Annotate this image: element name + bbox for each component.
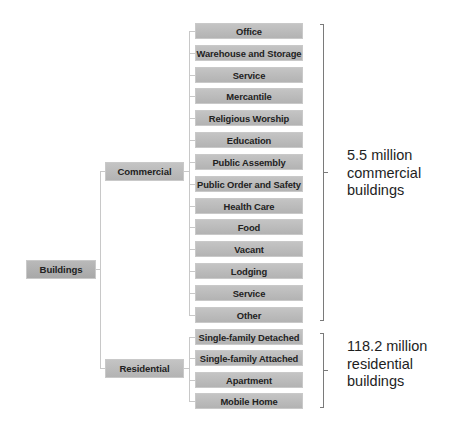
residential-bracket-tick bbox=[324, 370, 328, 371]
leaf-service: Service bbox=[195, 67, 303, 83]
leaf-label: Warehouse and Storage bbox=[197, 48, 302, 59]
leaf-lodging: Lodging bbox=[195, 263, 303, 279]
leaf-label: Public Order and Safety bbox=[197, 179, 301, 190]
leaf-warehouse-and-storage: Warehouse and Storage bbox=[195, 45, 303, 61]
leaf-label: Single-family Attached bbox=[200, 353, 299, 364]
connector-commercial-vertical bbox=[189, 31, 190, 315]
leaf-vacant: Vacant bbox=[195, 241, 303, 257]
leaf-label: Health Care bbox=[223, 201, 274, 212]
leaf-label: Public Assembly bbox=[212, 157, 285, 168]
leaf-label: Education bbox=[227, 135, 271, 146]
leaf-single-family-attached: Single-family Attached bbox=[195, 350, 303, 366]
node-label: Buildings bbox=[40, 264, 83, 275]
leaf-public-order-and-safety: Public Order and Safety bbox=[195, 176, 303, 192]
residential-summary: 118.2 million residential buildings bbox=[347, 338, 427, 391]
leaf-health-care: Health Care bbox=[195, 198, 303, 214]
node-residential: Residential bbox=[105, 359, 184, 378]
summary-line: commercial bbox=[347, 165, 421, 183]
building-taxonomy-diagram: Buildings Commercial Residential Office … bbox=[0, 0, 451, 429]
connector-level2-vertical bbox=[100, 171, 101, 369]
leaf-label: Service bbox=[233, 288, 266, 299]
summary-line: buildings bbox=[347, 373, 427, 391]
leaf-label: Vacant bbox=[234, 244, 264, 255]
leaf-label: Mobile Home bbox=[220, 396, 277, 407]
connector-residential-vertical bbox=[189, 337, 190, 401]
leaf-public-assembly: Public Assembly bbox=[195, 154, 303, 170]
leaf-label: Religious Worship bbox=[209, 113, 289, 124]
node-label: Residential bbox=[119, 363, 169, 374]
leaf-label: Other bbox=[237, 310, 262, 321]
leaf-religious-worship: Religious Worship bbox=[195, 110, 303, 126]
summary-line: buildings bbox=[347, 182, 421, 200]
leaf-office: Office bbox=[195, 23, 303, 39]
leaf-label: Office bbox=[236, 26, 262, 37]
summary-line: residential bbox=[347, 356, 427, 374]
node-buildings: Buildings bbox=[26, 260, 96, 279]
leaf-label: Service bbox=[233, 70, 266, 81]
leaf-mercantile: Mercantile bbox=[195, 88, 303, 104]
leaf-education: Education bbox=[195, 132, 303, 148]
leaf-single-family-detached: Single-family Detached bbox=[195, 329, 303, 345]
leaf-label: Mercantile bbox=[226, 91, 271, 102]
leaf-service-2: Service bbox=[195, 285, 303, 301]
leaf-other: Other bbox=[195, 307, 303, 323]
leaf-label: Apartment bbox=[226, 375, 272, 386]
leaf-label: Food bbox=[238, 222, 261, 233]
leaf-label: Lodging bbox=[231, 266, 267, 277]
node-commercial: Commercial bbox=[105, 162, 184, 181]
commercial-summary: 5.5 million commercial buildings bbox=[347, 147, 421, 200]
summary-line: 5.5 million bbox=[347, 147, 421, 165]
node-label: Commercial bbox=[118, 166, 172, 177]
leaf-apartment: Apartment bbox=[195, 372, 303, 388]
leaf-mobile-home: Mobile Home bbox=[195, 393, 303, 409]
summary-line: 118.2 million bbox=[347, 338, 427, 356]
leaf-food: Food bbox=[195, 219, 303, 235]
commercial-bracket-tick bbox=[324, 172, 328, 173]
leaf-label: Single-family Detached bbox=[199, 332, 300, 343]
